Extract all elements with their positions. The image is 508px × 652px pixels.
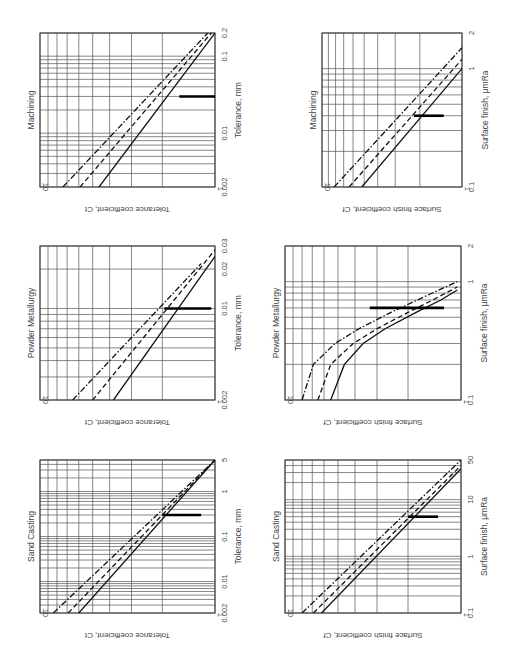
series-dashed-line xyxy=(349,59,462,187)
x-axis-label: Tolerance, mm xyxy=(233,295,243,351)
y-axis-label: Tolerance coefficient, Ct xyxy=(84,418,170,427)
y-tick-label: 1 xyxy=(216,613,225,617)
chart-title: Powder Metallurgy xyxy=(26,287,36,358)
x-tick-label: 0.02 xyxy=(220,262,229,277)
x-tick-label: 5 xyxy=(220,458,229,462)
series-solid-line xyxy=(114,256,216,400)
x-tick-label: 0.01 xyxy=(220,126,229,141)
x-tick-label: 1 xyxy=(466,554,475,558)
x-tick-label: 0.03 xyxy=(220,239,229,254)
y-tick-label: 1 xyxy=(462,613,471,617)
chart-title: Machining xyxy=(308,90,318,129)
y-tick-label: 10 xyxy=(323,183,332,191)
x-tick-label: 1 xyxy=(466,280,475,284)
panel-machining-tolerance: MachiningTolerance, mm0.0020.010.10.2Tol… xyxy=(0,3,255,227)
x-tick-label: 50 xyxy=(466,456,475,464)
y-axis-label: Surface finish coefficient, Cf xyxy=(342,205,442,214)
x-axis-label: Tolerance, mm xyxy=(233,82,243,138)
y-tick-label: 1 xyxy=(462,400,471,404)
x-tick-label: 2 xyxy=(467,31,476,35)
plot-frame xyxy=(285,460,461,613)
y-tick-label: 10 xyxy=(41,609,50,617)
panel-machining-surface-finish: MachiningSurface finish, μmRa0.112Surfac… xyxy=(282,3,502,227)
grid xyxy=(40,460,215,613)
panel-powder-metallurgy-tolerance: Powder MetallurgyTolerance, mm0.0020.010… xyxy=(0,216,255,440)
chart-title: Machining xyxy=(26,90,36,129)
chart-title: Powder Metallurgy xyxy=(271,287,281,358)
x-tick-label: 10 xyxy=(466,495,475,503)
plot-frame xyxy=(322,33,462,187)
x-tick-label: 0.2 xyxy=(220,28,229,38)
chart-title: Sand Casting xyxy=(271,511,281,562)
series-solid-line xyxy=(331,290,458,400)
series-dash-dot-line xyxy=(73,264,201,400)
y-tick-label: 10 xyxy=(286,396,295,404)
chart-title: Sand Casting xyxy=(26,511,36,562)
y-tick-label: 10 xyxy=(41,396,50,404)
series-solid-line xyxy=(362,69,462,187)
y-tick-label: 1 xyxy=(463,187,472,191)
x-axis-label: Surface finish, μmRa xyxy=(479,283,489,362)
panel-sand-casting-tolerance: Sand CastingTolerance, mm0.0020.010.115T… xyxy=(0,430,255,652)
x-tick-label: 0.01 xyxy=(220,574,229,589)
grid xyxy=(285,460,461,613)
x-tick-label: 0.1 xyxy=(220,51,229,61)
series-dashed-line xyxy=(93,250,215,400)
y-axis-label: Surface finish coefficient, Cf xyxy=(323,418,423,427)
y-tick-label: 1 xyxy=(216,400,225,404)
series-dash-dot-line xyxy=(302,460,461,613)
x-tick-label: 0.01 xyxy=(220,301,229,316)
grid xyxy=(285,246,461,400)
grid xyxy=(40,246,215,400)
x-tick-label: 2 xyxy=(466,244,475,248)
y-axis-label: Surface finish coefficient, Cf xyxy=(323,631,423,640)
y-axis-label: Tolerance coefficient, Ct xyxy=(84,205,170,214)
x-tick-label: 0.1 xyxy=(220,531,229,541)
series-solid-line xyxy=(322,469,462,613)
y-tick-label: 10 xyxy=(41,183,50,191)
y-axis-label: Tolerance coefficient, Ct xyxy=(84,631,170,640)
plot-frame xyxy=(285,246,461,400)
grid xyxy=(322,33,462,187)
x-axis-label: Tolerance, mm xyxy=(233,509,243,565)
panel-powder-metallurgy-surface-finish: Powder MetallurgySurface finish, μmRa0.1… xyxy=(245,216,501,440)
x-tick-label: 1 xyxy=(220,489,229,493)
x-axis-label: Surface finish, μmRa xyxy=(479,497,489,576)
x-tick-label: 1 xyxy=(467,67,476,71)
grid xyxy=(40,33,215,187)
y-tick-label: 10 xyxy=(286,609,295,617)
x-axis-label: Surface finish, μmRa xyxy=(480,70,490,149)
panel-sand-casting-surface-finish: Sand CastingSurface finish, μmRa0.111050… xyxy=(245,430,501,652)
y-tick-label: 1 xyxy=(216,187,225,191)
